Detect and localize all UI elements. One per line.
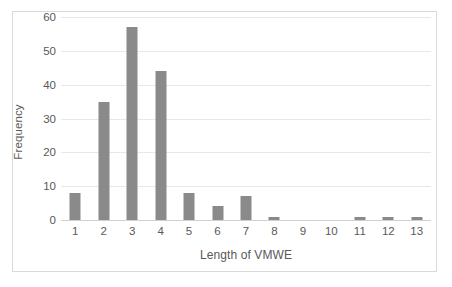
x-axis-tick-label: 3 bbox=[129, 225, 135, 237]
x-axis-tick-label: 9 bbox=[300, 225, 306, 237]
bar bbox=[411, 217, 422, 220]
bar-slot bbox=[346, 17, 374, 220]
x-axis-title: Length of VMWE bbox=[61, 248, 431, 262]
bar bbox=[70, 193, 81, 220]
bar bbox=[354, 217, 365, 220]
y-axis-tick-label: 0 bbox=[50, 214, 56, 226]
x-axis-tick-label: 10 bbox=[325, 225, 338, 237]
bar-slot bbox=[317, 17, 345, 220]
bar-slot bbox=[289, 17, 317, 220]
bar bbox=[98, 102, 109, 220]
x-axis-tick-labels: 12345678910111213 bbox=[61, 225, 431, 243]
bar bbox=[240, 196, 251, 220]
gridline bbox=[61, 220, 431, 221]
chart-container: Frequency 0102030405060 1234567891011121… bbox=[12, 11, 437, 272]
bar-slot bbox=[61, 17, 89, 220]
x-axis-tick-label: 7 bbox=[243, 225, 249, 237]
bar bbox=[155, 71, 166, 220]
x-axis-tick-label: 12 bbox=[382, 225, 395, 237]
x-axis-tick-label: 11 bbox=[354, 225, 366, 237]
bar bbox=[184, 193, 195, 220]
x-axis-tick-label: 4 bbox=[157, 225, 163, 237]
bar-series bbox=[61, 17, 431, 220]
bar bbox=[212, 206, 223, 220]
bar-slot bbox=[146, 17, 174, 220]
y-axis-tick-label: 40 bbox=[43, 79, 56, 91]
x-axis-tick-label: 1 bbox=[72, 225, 78, 237]
x-axis-tick-label: 2 bbox=[100, 225, 106, 237]
y-axis-tick-label: 60 bbox=[43, 11, 56, 23]
y-axis-title: Frequency bbox=[12, 72, 28, 192]
x-axis-tick-label: 13 bbox=[410, 225, 423, 237]
x-axis-tick-label: 6 bbox=[214, 225, 220, 237]
bar bbox=[383, 217, 394, 220]
bar-slot bbox=[232, 17, 260, 220]
bar-slot bbox=[203, 17, 231, 220]
bar-slot bbox=[403, 17, 431, 220]
y-axis-tick-label: 30 bbox=[43, 113, 56, 125]
bar-slot bbox=[89, 17, 117, 220]
y-axis-tick-label: 50 bbox=[43, 45, 56, 57]
bar-slot bbox=[374, 17, 402, 220]
plot-area: 0102030405060 bbox=[61, 17, 431, 220]
x-axis-tick-label: 8 bbox=[271, 225, 277, 237]
bar bbox=[269, 217, 280, 220]
y-axis-tick-label: 10 bbox=[43, 180, 56, 192]
x-axis-tick-label: 5 bbox=[186, 225, 192, 237]
bar bbox=[127, 27, 138, 220]
bar-slot bbox=[175, 17, 203, 220]
y-axis-tick-label: 20 bbox=[43, 146, 56, 158]
bar-slot bbox=[118, 17, 146, 220]
bar-slot bbox=[260, 17, 288, 220]
